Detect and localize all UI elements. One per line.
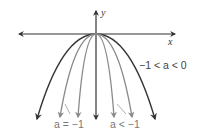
x-axis-label: x <box>168 36 172 47</box>
leader-line-inner <box>117 104 126 114</box>
label-inner-condition: a < −1 <box>110 118 140 130</box>
parabola-middle-right <box>96 34 132 117</box>
label-outer-condition: −1 < a < 0 <box>139 59 187 71</box>
y-axis-label: y <box>101 7 105 18</box>
leader-line-middle <box>65 104 70 114</box>
label-middle-condition: a = −1 <box>54 118 84 130</box>
